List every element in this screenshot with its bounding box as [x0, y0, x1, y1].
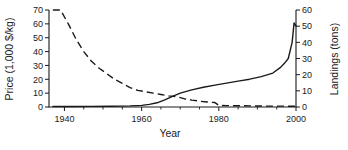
left-axis-tick-label: 70: [33, 5, 43, 15]
x-axis-tick-label: 1940: [54, 114, 74, 124]
right-axis-title: Landings (tons): [328, 23, 340, 95]
chart-figure: Price (1,000 $/kg) Landings (tons) Year …: [0, 0, 348, 150]
series-line-price: [53, 10, 296, 106]
right-axis-tick-label: 0: [302, 102, 307, 112]
right-axis-tick-label: 50: [302, 21, 312, 31]
left-axis-title: Price (1,000 $/kg): [3, 18, 15, 101]
right-axis-tick-label: 20: [302, 70, 312, 80]
axes-spines: [49, 10, 296, 107]
right-axis-tick-label: 40: [302, 38, 312, 48]
right-axis-tick-label: 60: [302, 5, 312, 15]
left-axis-tick-label: 60: [33, 19, 43, 29]
x-axis-title: Year: [159, 127, 181, 139]
plot-area: 0102030405060700102030405060194019601980…: [33, 5, 312, 124]
left-axis-tick-label: 40: [33, 47, 43, 57]
left-axis-tick-label: 20: [33, 75, 43, 85]
right-axis-tick-label: 10: [302, 86, 312, 96]
x-axis-tick-label: 2000: [286, 114, 306, 124]
series-line-landings: [53, 23, 296, 107]
left-axis-tick-label: 10: [33, 88, 43, 98]
left-axis-tick-label: 0: [38, 102, 43, 112]
x-axis-tick-label: 1960: [132, 114, 152, 124]
x-axis-tick-label: 1980: [209, 114, 229, 124]
left-axis-tick-label: 30: [33, 61, 43, 71]
right-axis-tick-label: 30: [302, 54, 312, 64]
left-axis-tick-label: 50: [33, 33, 43, 43]
price-landings-line-chart: Price (1,000 $/kg) Landings (tons) Year …: [0, 0, 348, 150]
